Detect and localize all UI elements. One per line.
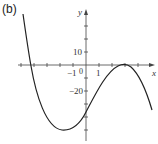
x-axis-arrow-icon	[149, 63, 155, 67]
x-tick-label-1: 1	[96, 68, 101, 78]
x-axis-label: x	[151, 68, 156, 78]
y-axis-arrow-icon	[84, 9, 88, 15]
x-tick-label-0: 0	[79, 67, 83, 76]
function-curve	[23, 14, 152, 130]
x-tick-label-neg1: −1	[67, 68, 77, 78]
y-tick-label-neg20: −20	[69, 86, 84, 96]
y-tick-label-10: 10	[73, 47, 83, 57]
y-axis-label: y	[77, 7, 82, 17]
cubic-function-graph: −1 0 1 10 −20 x y	[0, 0, 158, 144]
